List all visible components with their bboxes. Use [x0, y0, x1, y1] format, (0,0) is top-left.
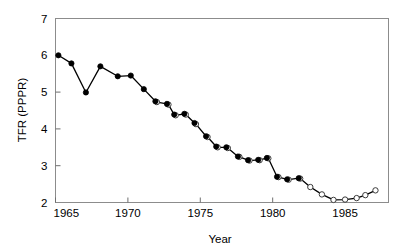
x-tick-label: 1985 — [332, 207, 358, 219]
y-axis-title: TFR (PPPR) — [16, 78, 28, 143]
data-point-open — [354, 195, 359, 200]
data-point-filled — [172, 112, 177, 117]
y-tick-label: 4 — [41, 123, 48, 135]
x-tick-label: 1975 — [187, 207, 213, 219]
data-point-filled — [245, 158, 250, 163]
data-point-filled — [214, 144, 219, 149]
chart-canvas: 19651970197519801985 234567 Year TFR (PP… — [0, 0, 401, 252]
data-point-filled — [141, 87, 146, 92]
x-axis-title: Year — [208, 233, 231, 245]
data-point-filled — [115, 74, 120, 79]
data-point-filled — [192, 120, 197, 125]
y-tick-label: 2 — [41, 197, 47, 209]
data-point-open — [363, 192, 368, 197]
data-point-filled — [56, 53, 61, 58]
data-point-filled — [264, 155, 269, 160]
x-tick-label: 1965 — [54, 207, 80, 219]
data-point-filled — [235, 154, 240, 159]
x-tick-label: 1970 — [115, 207, 141, 219]
data-point-open — [373, 188, 378, 193]
data-point-filled — [83, 90, 88, 95]
data-point-filled — [69, 61, 74, 66]
y-tick-label: 6 — [41, 49, 47, 61]
y-tick-label: 3 — [41, 160, 47, 172]
data-point-filled — [153, 99, 158, 104]
chart-figure: 19651970197519801985 234567 Year TFR (PP… — [0, 0, 401, 252]
data-point-open — [308, 184, 313, 189]
data-point-open — [331, 197, 336, 202]
data-point-filled — [203, 134, 208, 139]
data-point-filled — [256, 157, 261, 162]
data-point-filled — [285, 177, 290, 182]
data-point-open — [319, 192, 324, 197]
data-point-filled — [182, 111, 187, 116]
data-point-filled — [296, 176, 301, 181]
data-point-filled — [164, 101, 169, 106]
data-point-filled — [128, 73, 133, 78]
y-tick-label: 7 — [41, 13, 47, 25]
data-point-filled — [274, 174, 279, 179]
data-point-filled — [98, 64, 103, 69]
data-point-open — [342, 197, 347, 202]
y-tick-label: 5 — [41, 86, 47, 98]
x-tick-label: 1980 — [260, 207, 286, 219]
data-point-filled — [224, 145, 229, 150]
